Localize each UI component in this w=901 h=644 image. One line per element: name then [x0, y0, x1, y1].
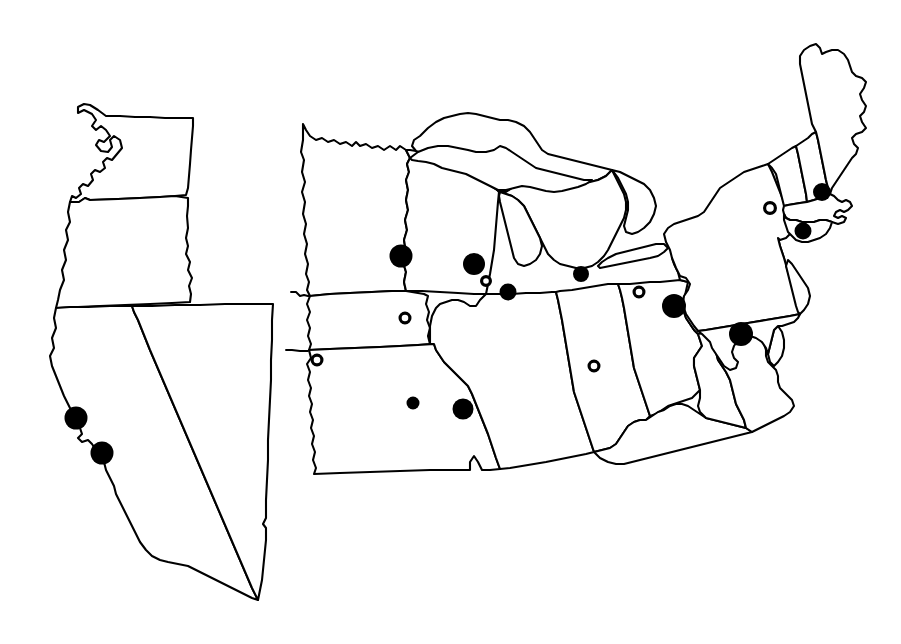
state-oregon	[56, 196, 192, 308]
open-circle-marker	[312, 355, 322, 365]
state-iowa	[307, 291, 430, 350]
filled-circle-marker	[453, 399, 474, 420]
open-circle-marker	[765, 203, 776, 214]
state-minnesota	[301, 124, 410, 296]
open-circle-marker	[634, 287, 644, 297]
filled-circle-marker	[662, 294, 686, 318]
filled-circle-marker	[91, 442, 114, 465]
open-circle-marker	[589, 361, 599, 371]
filled-circle-marker	[813, 183, 831, 201]
filled-circle-marker	[390, 245, 413, 268]
filled-circle-marker	[729, 322, 753, 346]
state-kansas-partial	[286, 350, 308, 351]
filled-circle-marker	[65, 407, 88, 430]
distribution-map-figure	[0, 0, 901, 644]
open-circle-marker	[400, 313, 410, 323]
filled-circle-marker	[795, 223, 812, 240]
map-canvas	[0, 0, 901, 644]
open-circle-marker	[482, 277, 491, 286]
filled-circle-marker	[463, 253, 485, 275]
filled-circle-marker	[573, 266, 589, 282]
filled-circle-marker	[500, 284, 517, 301]
filled-circle-marker	[407, 397, 420, 410]
